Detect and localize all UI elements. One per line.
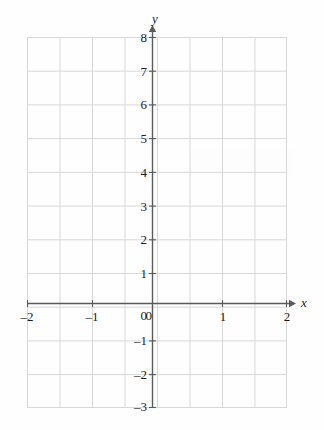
y-axis-arrowhead	[149, 25, 156, 32]
y-tick-label-6: 6	[125, 98, 147, 111]
y-tick-label-3: 3	[125, 200, 147, 213]
x-tick-label-1: 1	[208, 310, 238, 323]
y-tick-label-7: 7	[125, 65, 147, 78]
x-tick-label-2: 2	[272, 310, 302, 323]
x-axis-arrowhead	[289, 300, 296, 307]
y-tick-label-neg2: –2	[120, 368, 147, 381]
y-axis	[149, 25, 156, 408]
y-tick-label-2: 2	[125, 233, 147, 246]
y-tick-label-1: 1	[125, 267, 147, 280]
plot-canvas	[0, 0, 324, 430]
x-tick-label-0: 0	[132, 309, 152, 322]
x-tick-label-neg2: –2	[12, 310, 42, 323]
x-axis	[27, 300, 296, 307]
y-tick-label-neg1: –1	[120, 334, 147, 347]
x-tick-label-neg1: –1	[77, 310, 107, 323]
y-tick-label-4: 4	[125, 166, 147, 179]
y-axis-label: y	[152, 12, 158, 25]
y-tick-label-neg3: –3	[120, 400, 147, 413]
grid-lines-vertical	[28, 37, 287, 408]
x-axis-label: x	[301, 296, 307, 309]
y-tick-label-8: 8	[125, 31, 147, 44]
coordinate-grid-figure: 8 7 6 5 4 3 2 1 0 –1 –2 –3 –2 –1 0 1 2 x…	[0, 0, 324, 430]
y-tick-label-5: 5	[125, 132, 147, 145]
